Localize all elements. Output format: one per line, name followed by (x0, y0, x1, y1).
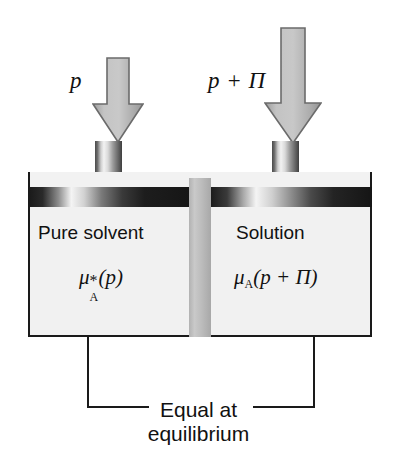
mu-subscript-right: A (245, 277, 254, 291)
mu-symbol-left: μ (79, 265, 90, 289)
semipermeable-membrane (189, 178, 211, 337)
mu-argument-left: (p) (99, 265, 124, 289)
piston-head-left (30, 187, 189, 207)
mu-superscript-left: * (90, 272, 98, 290)
mu-symbol-right: μ (234, 265, 245, 289)
chemical-potential-right: μA(p + Π) (234, 265, 318, 292)
pressure-label-right: p + Π (208, 68, 266, 94)
piston-head-right (211, 187, 372, 207)
solution-label: Solution (236, 222, 305, 244)
equilibrium-caption: Equal at equilibrium (0, 398, 397, 446)
mu-argument-right: (p + Π) (253, 265, 317, 289)
mu-subscript-left: A (90, 290, 99, 305)
osmosis-diagram: p p + Π (0, 0, 397, 473)
caption-line-1: Equal at (0, 398, 397, 422)
pressure-arrow-left-icon (92, 57, 144, 143)
pressure-label-left: p (70, 68, 82, 94)
pressure-arrow-right-icon (264, 27, 322, 144)
chemical-potential-left: μ*A(p) (79, 265, 123, 290)
pure-solvent-label: Pure solvent (38, 222, 144, 244)
caption-line-2: equilibrium (0, 422, 397, 446)
